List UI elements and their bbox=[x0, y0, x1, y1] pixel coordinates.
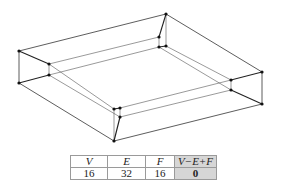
value-v: 16 bbox=[71, 168, 108, 180]
value-e: 32 bbox=[108, 168, 146, 180]
table-value-row: 16 32 16 0 bbox=[71, 168, 217, 180]
value-euler: 0 bbox=[175, 168, 217, 180]
header-e: E bbox=[108, 156, 146, 168]
header-v: V bbox=[71, 156, 108, 168]
inner-edges bbox=[49, 14, 231, 141]
euler-characteristic-table: V E F V−E+F 16 32 16 0 bbox=[70, 155, 217, 180]
value-f: 16 bbox=[146, 168, 175, 180]
outer-edges bbox=[19, 14, 262, 141]
connecting-edges bbox=[19, 14, 262, 141]
header-euler: V−E+F bbox=[175, 156, 217, 168]
table-header-row: V E F V−E+F bbox=[71, 156, 217, 168]
frame-polyhedron-diagram bbox=[0, 0, 281, 150]
header-f: F bbox=[146, 156, 175, 168]
